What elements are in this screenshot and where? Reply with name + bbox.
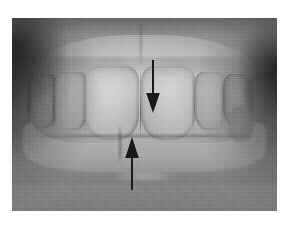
top-edge-shadow [12,18,277,211]
intraoral-photograph [12,18,277,211]
page-canvas [0,0,291,229]
